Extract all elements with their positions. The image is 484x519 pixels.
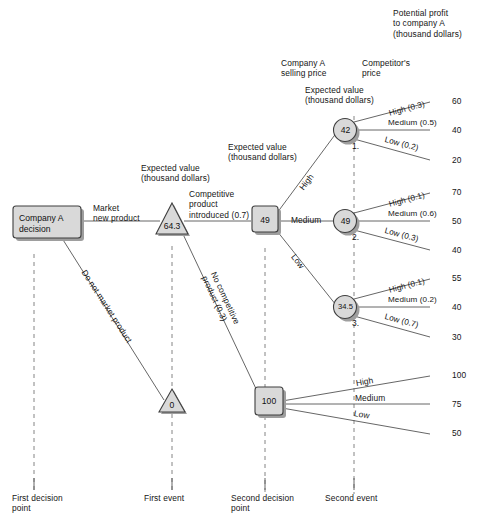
branch-2-outcome-1-payoff: 40	[452, 302, 462, 312]
branch-1-outcome-1-payoff: 50	[452, 216, 462, 226]
branch-3-outcome-1-label: Medium	[355, 393, 385, 403]
branch-2-outcome-2-payoff: 30	[452, 332, 462, 342]
branch-1-outcome-2-payoff: 40	[452, 245, 462, 255]
node-event2-label: 49	[334, 216, 357, 226]
axis-label-second-event: Second event	[325, 493, 377, 503]
branch-1-outcome-0-payoff: 70	[452, 187, 462, 197]
node-no-competition-label: 100	[255, 396, 283, 406]
edge-price-medium: Medium	[291, 215, 321, 225]
branch-3-outcome-1-payoff: 75	[452, 399, 462, 409]
node-first-event-label: 64.3	[157, 221, 187, 231]
node-no-market-label: 0	[160, 400, 184, 410]
node-event3-index: 3.	[352, 318, 359, 328]
branch-1-outcome-1-label: Medium (0.6)	[388, 209, 437, 219]
branch-2-outcome-1-label: Medium (0.2)	[388, 295, 437, 305]
node-second-decision-label: 49	[252, 215, 278, 225]
axis-label-second-decision-point: Second decision point	[231, 493, 294, 514]
branch-0-outcome-2-payoff: 20	[452, 155, 462, 165]
edge-market-new-product: Market new product	[93, 203, 140, 224]
branch-0-outcome-1-label: Medium (0.5)	[388, 118, 437, 128]
node-event3-label: 34.5	[331, 302, 360, 311]
node-event1-index: 1.	[352, 141, 359, 151]
header-company-a-price: Company A selling price	[281, 58, 327, 79]
edge-competitive-product: Competitive product introduced (0.7)	[189, 189, 249, 220]
diagram-vector-layer: .ln { stroke: #555; stroke-width: 0.9; f…	[0, 0, 484, 519]
axis-label-first-event: First event	[144, 493, 184, 503]
axis-ticks	[34, 478, 354, 490]
header-competitors-price: Competitor's price	[362, 58, 410, 79]
decision-tree-diagram: .ln { stroke: #555; stroke-width: 0.9; f…	[0, 0, 484, 519]
branch-2-outcome-0-payoff: 55	[452, 273, 462, 283]
node-event2-index: 2.	[352, 232, 359, 242]
header-expected-value-right: Expected value (thousand dollars)	[305, 85, 374, 106]
branch-3-outcome-2-payoff: 50	[452, 428, 462, 438]
node-event1-label: 42	[334, 125, 357, 135]
branch-0-outcome-0-payoff: 60	[452, 96, 462, 106]
branch-3-outcome-0-payoff: 100	[452, 370, 466, 380]
node-root-label: Company A decision	[19, 213, 75, 235]
header-expected-value-mid: Expected value (thousand dollars)	[141, 163, 210, 184]
branch-0-outcome-1-payoff: 40	[452, 125, 462, 135]
node-first-event-shape	[156, 203, 190, 236]
potential-profit-note: Potential profit to company A (thousand …	[393, 8, 462, 39]
axis-label-first-decision-point: First decision point	[12, 493, 63, 514]
header-expected-value-left: Expected value (thousand dollars)	[228, 142, 297, 163]
